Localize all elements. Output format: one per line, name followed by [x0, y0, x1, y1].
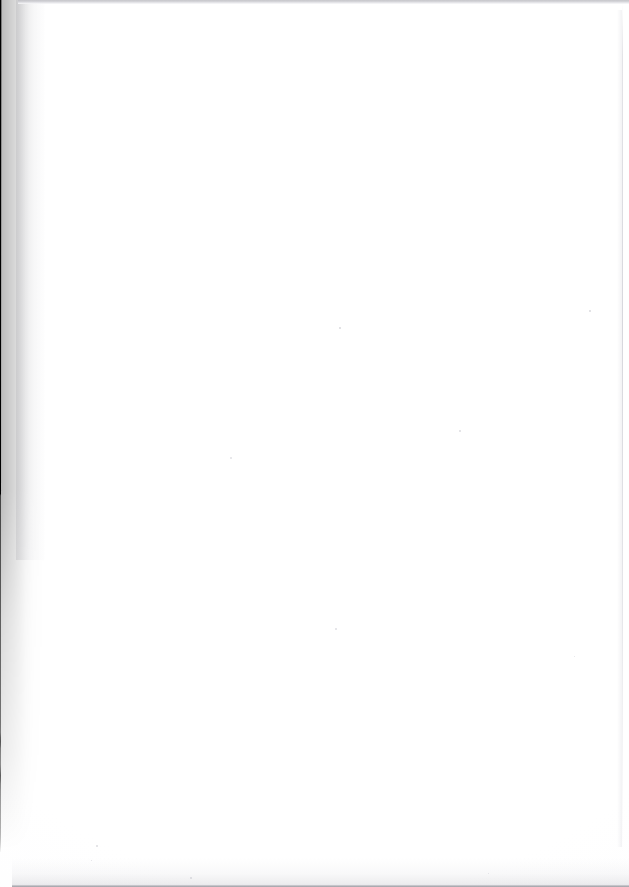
binding-gutter-spill — [16, 0, 46, 560]
binding-gutter-falloff — [0, 0, 46, 887]
scan-edge-bottom-shadow — [12, 858, 629, 884]
page-body-text — [60, 60, 589, 827]
dust-speck — [96, 845, 98, 847]
scan-edge-top — [18, 0, 629, 4]
binding-gutter-shadow — [0, 0, 40, 887]
page-edge-right — [622, 4, 623, 853]
dust-speck — [589, 310, 591, 312]
scanned-page — [0, 0, 629, 887]
